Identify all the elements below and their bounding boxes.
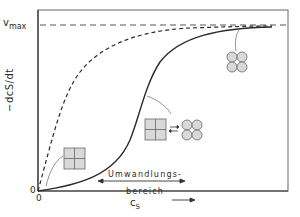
round-tetramer-icon — [227, 52, 247, 72]
round-tetramer-icon-middle — [182, 120, 202, 140]
origin-x-label: 0 — [36, 193, 42, 203]
square-tetramer-icon-middle — [145, 119, 166, 140]
transition-range-arrow — [98, 179, 185, 183]
pointer-line-mixed — [147, 96, 171, 114]
kinetics-diagram — [0, 0, 300, 217]
equilibrium-arrows-icon — [169, 126, 179, 133]
y-axis-label: −dcS/dt — [4, 68, 15, 112]
pointer-line-rstate — [235, 30, 239, 51]
x-axis-direction-arrow — [172, 198, 195, 202]
transition-range-label: Umwandlungs- — [108, 170, 182, 179]
x-axis-label: cS — [130, 197, 140, 211]
transition-range-label-2: bereich — [126, 187, 164, 196]
pointer-line-tstate — [46, 156, 63, 186]
vmax-label: vmax — [3, 17, 26, 31]
square-tetramer-icon — [64, 148, 85, 169]
origin-y-label: 0 — [30, 185, 36, 195]
